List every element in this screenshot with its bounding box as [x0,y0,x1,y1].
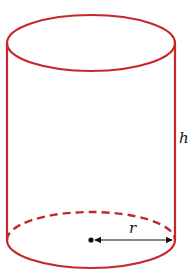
cylinder-diagram: r h [0,0,188,277]
bottom-face-front [7,240,175,268]
height-label: h [179,129,188,147]
cylinder-figure: r h [0,0,188,277]
top-face [7,15,175,71]
radius-label: r [129,219,137,237]
bottom-face-back [7,212,175,240]
center-point [88,237,93,242]
